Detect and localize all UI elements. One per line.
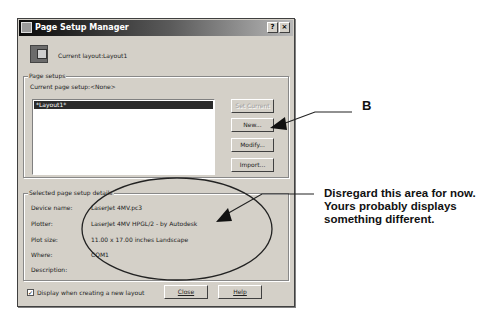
annotation-overlay xyxy=(0,0,497,320)
arrow-note-head xyxy=(216,208,232,222)
annotation-b-label: B xyxy=(362,98,371,113)
arrow-b-head xyxy=(270,117,287,130)
arrow-note-line xyxy=(225,194,314,215)
highlight-ellipse xyxy=(82,178,272,280)
annotation-note: Disregard this area for now. Yours proba… xyxy=(324,187,494,226)
arrow-b-line xyxy=(280,112,352,125)
